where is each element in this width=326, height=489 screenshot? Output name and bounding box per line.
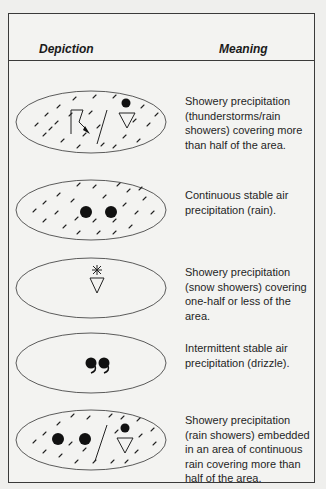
- header-meaning: Meaning: [219, 42, 268, 56]
- drizzle-comma-icon: [86, 358, 97, 374]
- table-row: Showery precipitation (thunderstorms/rai…: [9, 76, 314, 166]
- meaning-text: Showery precipitation (snow showers) cov…: [185, 265, 315, 323]
- hatched-oval-icon: [13, 176, 173, 246]
- hatched-oval-icon: [13, 86, 173, 156]
- snow-asterisk-icon: [92, 265, 102, 275]
- continuous-rain-depiction: [13, 176, 173, 246]
- meaning-text: Showery precipitation (rain showers) emb…: [185, 413, 315, 486]
- table-row: Showery precipitation (rain showers) emb…: [9, 403, 314, 483]
- table-header: Depiction Meaning: [9, 14, 314, 61]
- meaning-text: Continuous stable air precipitation (rai…: [185, 188, 315, 217]
- thunderstorm-rainshower-depiction: [13, 86, 173, 156]
- header-depiction: Depiction: [39, 42, 94, 56]
- drizzle-depiction: [13, 331, 173, 401]
- drizzle-comma-icon: [99, 358, 110, 374]
- hatched-oval-icon: [13, 407, 173, 477]
- empty-oval-icon: [13, 255, 173, 325]
- empty-oval-icon: [13, 331, 173, 401]
- meaning-text: Intermittent stable air precipitation (d…: [185, 341, 315, 370]
- table-row: Showery precipitation (snow showers) cov…: [9, 251, 314, 331]
- legend-table: Depiction Meaning: [8, 13, 315, 483]
- snow-shower-depiction: [13, 255, 173, 325]
- meaning-text: Showery precipitation (thunderstorms/rai…: [185, 94, 315, 152]
- rain-with-showers-depiction: [13, 407, 173, 477]
- table-row: Intermittent stable air precipitation (d…: [9, 331, 314, 403]
- table-row: Continuous stable air precipitation (rai…: [9, 166, 314, 251]
